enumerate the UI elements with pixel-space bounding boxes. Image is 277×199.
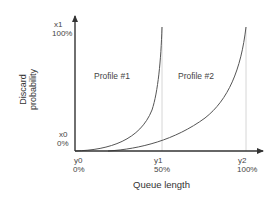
y-axis-title: Discard probability [18,69,38,110]
profile-2-curve [108,27,246,151]
diagram-canvas [0,0,277,199]
y1-tick-name: y1 [154,156,162,165]
y-axis-title-line2: probability [28,69,38,110]
profile-2-label: Profile #2 [178,71,214,81]
x0-tick-name: x0 [59,130,67,139]
profile-1-curve [75,27,162,151]
x1-tick-name: x1 [54,20,62,29]
y0-tick-name: y0 [74,156,82,165]
y0-tick-value: 0% [73,165,85,174]
y2-tick-name: y2 [238,156,246,165]
x-axis-title: Queue length [133,179,190,190]
y1-tick-value: 50% [154,165,170,174]
x0-tick-value: 0% [57,139,69,148]
y2-tick-value: 100% [237,165,257,174]
profile-1-label: Profile #1 [94,71,130,81]
y-axis-title-line1: Discard [18,69,28,110]
x1-tick-value: 100% [52,29,72,38]
